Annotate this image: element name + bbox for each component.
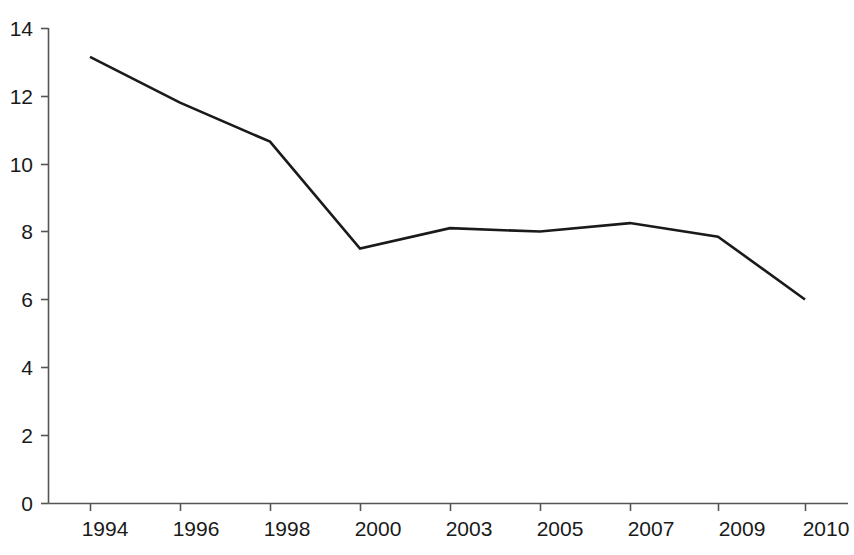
- x-tick-label-2005: 2005: [537, 517, 584, 540]
- x-tick-label-1994: 1994: [82, 517, 129, 540]
- chart-background: [0, 0, 854, 555]
- x-tick-label-2000: 2000: [355, 517, 402, 540]
- x-axis-tick-labels: 1994 1996 1998 2000 2003 2005 2007 2009 …: [82, 517, 850, 540]
- x-tick-label-1996: 1996: [173, 517, 220, 540]
- y-tick-label-8: 8: [21, 220, 33, 243]
- y-tick-label-14: 14: [10, 17, 34, 40]
- y-tick-label-12: 12: [10, 85, 33, 108]
- x-tick-label-1998: 1998: [264, 517, 311, 540]
- y-tick-label-0: 0: [21, 492, 33, 515]
- y-tick-label-6: 6: [21, 288, 33, 311]
- y-tick-label-10: 10: [10, 153, 33, 176]
- x-tick-label-2009: 2009: [719, 517, 766, 540]
- chart-container: 0 2 4 6 8 10 12 14 1994 1996 1998 2000: [0, 0, 854, 555]
- y-tick-label-2: 2: [21, 424, 33, 447]
- line-chart: 0 2 4 6 8 10 12 14 1994 1996 1998 2000: [0, 0, 854, 555]
- x-tick-label-2003: 2003: [446, 517, 493, 540]
- y-tick-label-4: 4: [21, 356, 33, 379]
- x-tick-label-2010: 2010: [803, 517, 850, 540]
- x-tick-label-2007: 2007: [628, 517, 675, 540]
